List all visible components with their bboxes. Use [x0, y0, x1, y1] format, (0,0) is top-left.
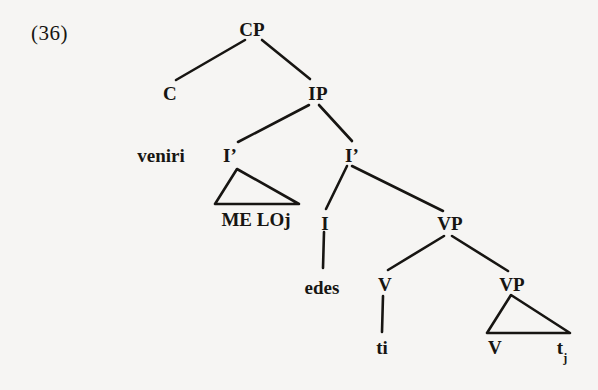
node-cp: CP	[239, 20, 265, 39]
leaf-trace-i: ti	[376, 338, 388, 357]
node-vp-upper: VP	[437, 214, 463, 233]
cp-to-c	[176, 40, 245, 80]
node-vp-lower: VP	[499, 275, 525, 294]
cp-to-ip	[262, 40, 310, 79]
subscript-j: j	[284, 209, 290, 230]
node-i-bar-left: I’	[223, 146, 237, 165]
leaf-edes: edes	[305, 278, 340, 297]
leaf-me-lo: ME LOj	[221, 210, 290, 229]
ip-to-ibar-left	[238, 105, 309, 142]
vp-lower-triangle	[487, 295, 570, 333]
node-i-head: I	[321, 214, 329, 233]
leaf-venir: veniri	[137, 146, 185, 165]
node-v-in-triangle: V	[488, 338, 502, 357]
tree-edges-layer	[0, 0, 598, 390]
ibar-right-to-i	[326, 166, 347, 209]
node-v-left: V	[378, 275, 392, 294]
node-trace-j: tj	[557, 338, 568, 361]
i-to-edes	[323, 232, 324, 268]
ibar-right-to-vp	[352, 166, 443, 211]
subscript-i: i	[383, 337, 388, 358]
vp-to-v	[388, 236, 444, 270]
v-to-t-i	[382, 296, 383, 332]
me-lo-triangle	[215, 169, 299, 204]
node-ip: IP	[308, 84, 327, 103]
node-c: C	[163, 84, 177, 103]
vp-to-vp-lower	[452, 236, 508, 271]
subscript-i: i	[179, 145, 184, 166]
triangle-shapes	[215, 169, 570, 333]
ip-to-ibar-right	[319, 105, 352, 141]
syntax-tree-figure: (36) CP C IP I’ I’ I VP V VP V tj veniri…	[0, 0, 598, 390]
node-i-bar-right: I’	[345, 146, 359, 165]
subscript-j: j	[563, 351, 567, 365]
